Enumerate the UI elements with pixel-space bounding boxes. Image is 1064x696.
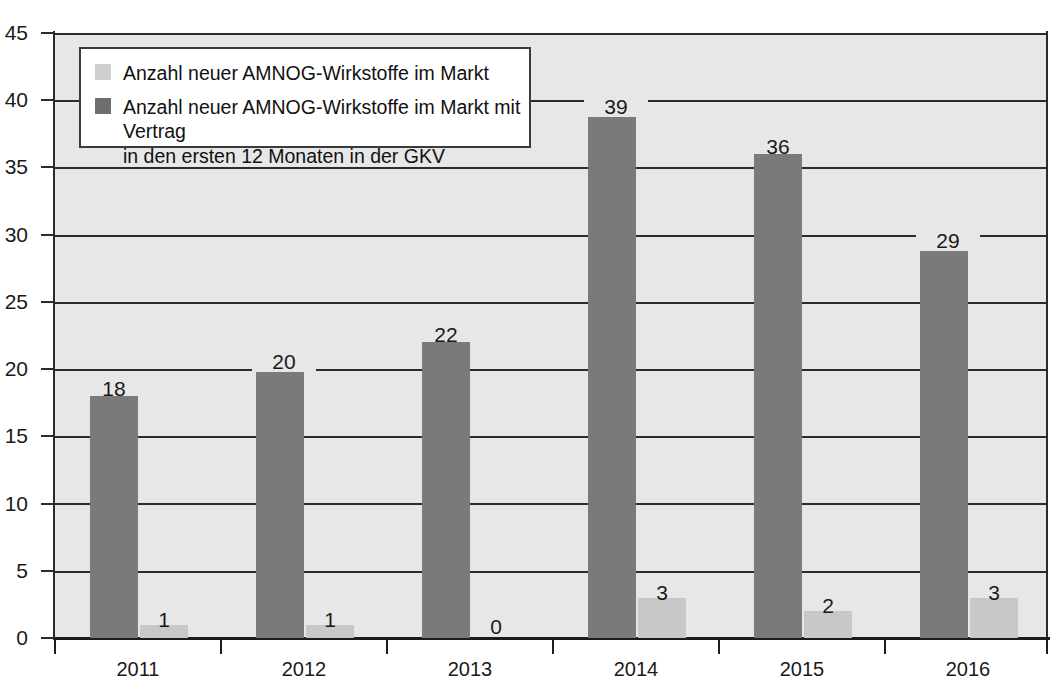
chart-legend: Anzahl neuer AMNOG-Wirkstoffe im Markt A…	[79, 47, 531, 148]
bar-value-dark-2015: 36	[754, 136, 802, 157]
bar-value-light-2013: 0	[472, 616, 520, 637]
x-tick-label-2015: 2015	[719, 659, 885, 679]
x-tick-mark-1	[220, 640, 222, 654]
y-tick-label-10: 10	[0, 493, 28, 514]
legend-item-1: Anzahl neuer AMNOG-Wirkstoffe im Markt m…	[95, 95, 529, 168]
y-tick-mark-45	[41, 32, 55, 34]
bar-dark-2012	[256, 369, 304, 638]
bar-value-light-2015: 2	[804, 595, 852, 616]
y-tick-label-15: 15	[0, 425, 28, 446]
legend-label-0: Anzahl neuer AMNOG-Wirkstoffe im Markt	[123, 61, 489, 85]
x-tick-label-2012: 2012	[221, 659, 387, 679]
y-tick-mark-10	[41, 503, 55, 505]
bar-dark-2013	[422, 342, 470, 638]
x-tick-mark-5	[884, 640, 886, 654]
bar-dark-2015	[754, 154, 802, 638]
y-tick-mark-5	[41, 570, 55, 572]
bar-value-dark-2011: 18	[90, 378, 138, 399]
bar-value-light-2012: 1	[306, 609, 354, 630]
y-tick-mark-30	[41, 234, 55, 236]
bar-dark-2014	[588, 114, 636, 638]
y-tick-label-0: 0	[0, 627, 28, 648]
bar-value-dark-2013: 22	[422, 324, 470, 345]
x-tick-label-2011: 2011	[55, 659, 221, 679]
x-tick-label-2014: 2014	[553, 659, 719, 679]
y-tick-label-40: 40	[0, 89, 28, 110]
y-tick-label-30: 30	[0, 224, 28, 245]
bar-value-dark-2016: 29	[916, 230, 980, 251]
y-tick-mark-25	[41, 301, 55, 303]
x-tick-label-2013: 2013	[387, 659, 553, 679]
bar-light-2014	[638, 598, 686, 638]
bar-chart: 45 40 35 30 25 20 15 10 5 0 18 20 22 39 …	[0, 0, 1064, 696]
bar-value-light-2016: 3	[970, 582, 1018, 603]
y-tick-label-45: 45	[0, 22, 28, 43]
x-tick-mark-3	[552, 640, 554, 654]
bar-dark-2016	[920, 248, 968, 638]
x-tick-mark-2	[386, 640, 388, 654]
y-tick-label-35: 35	[0, 156, 28, 177]
bar-value-light-2011: 1	[140, 609, 188, 630]
y-tick-mark-0	[41, 637, 55, 639]
legend-label-1: Anzahl neuer AMNOG-Wirkstoffe im Markt m…	[123, 95, 529, 168]
x-tick-mark-0	[54, 640, 56, 654]
y-tick-mark-15	[41, 435, 55, 437]
legend-item-0: Anzahl neuer AMNOG-Wirkstoffe im Markt	[95, 61, 489, 85]
legend-swatch-light-icon	[95, 64, 111, 80]
y-tick-mark-40	[41, 99, 55, 101]
y-tick-label-20: 20	[0, 358, 28, 379]
x-tick-label-2016: 2016	[885, 659, 1051, 679]
x-tick-mark-4	[718, 640, 720, 654]
bar-light-2016	[970, 598, 1018, 638]
y-tick-mark-20	[41, 368, 55, 370]
bar-value-dark-2014: 39	[584, 96, 648, 117]
bar-dark-2011	[90, 396, 138, 638]
y-tick-mark-35	[41, 166, 55, 168]
bar-value-light-2014: 3	[638, 582, 686, 603]
y-tick-label-25: 25	[0, 291, 28, 312]
bar-value-dark-2012: 20	[252, 351, 316, 372]
y-tick-label-5: 5	[0, 560, 28, 581]
x-tick-mark-6	[1046, 640, 1048, 654]
legend-swatch-dark-icon	[95, 98, 111, 114]
